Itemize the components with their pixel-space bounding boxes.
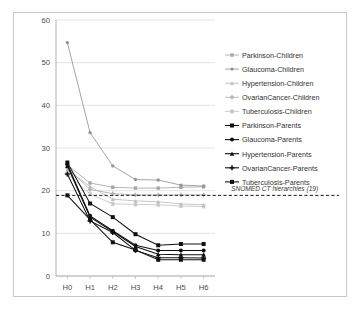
data-point [111,240,115,244]
data-point [134,248,138,252]
legend-label: Hypertension-Parents [242,150,312,159]
data-point [179,183,182,186]
data-point [134,178,137,181]
legend-marker [230,53,233,56]
legend-marker [230,124,234,128]
x-tick-label: H5 [176,283,186,292]
line-chart-svg: 0102030405060H0H1H2H3H4H5H6SNOMED CT hie… [14,13,346,296]
x-tick-label: H0 [62,283,72,292]
chart-plot-frame: 0102030405060H0H1H2H3H4H5H6SNOMED CT hie… [13,12,347,297]
x-tick-label: H2 [108,283,118,292]
chart-legend: Parkinson-ChildrenGlaucoma-ChildrenHyper… [225,51,320,187]
y-tick-label: 0 [46,272,50,281]
legend-marker [230,67,233,70]
data-point [202,248,206,252]
y-tick-label: 30 [42,144,50,153]
data-point [179,248,183,252]
legend-item-tuberculosis-children[interactable]: Tuberculosis-Children [225,107,312,116]
x-tick-label: H6 [199,283,209,292]
legend-label: OvarianCancer-Children [242,93,320,102]
legend-label: Glaucoma-Parents [242,135,302,144]
legend-marker [230,180,234,184]
data-point [202,258,206,262]
y-tick-label: 40 [42,101,50,110]
x-tick-label: H3 [131,283,141,292]
chart-figure: 0102030405060H0H1H2H3H4H5H6SNOMED CT hie… [0,0,360,318]
data-point [88,181,91,184]
data-point [66,41,69,44]
legend-item-ovariancancer-parents[interactable]: OvarianCancer-Parents [225,164,318,173]
data-point [134,186,137,189]
legend-label: Tuberculosis-Children [242,107,312,116]
legend-label: Parkinson-Children [242,51,303,60]
data-point [157,178,160,181]
y-tick-label: 50 [42,58,50,67]
y-tick-label: 60 [42,16,50,25]
y-tick-label: 20 [42,186,50,195]
legend-marker [230,138,234,142]
legend-item-ovariancancer-children[interactable]: OvarianCancer-Children [225,93,320,102]
legend-label: Tuberculosis-Parents [242,178,310,187]
data-point [88,131,91,134]
legend-item-hypertension-children[interactable]: Hypertension-Children [225,79,314,88]
legend-item-glaucoma-parents[interactable]: Glaucoma-Parents [225,135,302,144]
data-point [156,248,160,252]
y-tick-label: 10 [42,229,50,238]
data-point [134,232,138,236]
legend-item-parkinson-parents[interactable]: Parkinson-Parents [225,121,302,130]
legend-label: Glaucoma-Children [242,65,304,74]
x-tick-label: H1 [85,283,95,292]
legend-label: Hypertension-Children [242,79,314,88]
data-point [111,186,114,189]
data-point [156,258,160,262]
data-point [202,184,205,187]
data-point [179,258,183,262]
legend-item-parkinson-children[interactable]: Parkinson-Children [225,51,303,60]
data-point [202,242,206,246]
legend-label: OvarianCancer-Parents [242,164,318,173]
data-point [88,218,92,222]
x-tick-label: H4 [153,283,163,292]
legend-item-hypertension-parents[interactable]: Hypertension-Parents [225,150,312,159]
legend-label: Parkinson-Parents [242,121,302,130]
data-point [111,215,115,219]
legend-item-glaucoma-children[interactable]: Glaucoma-Children [225,65,304,74]
data-point [157,186,160,189]
data-point [156,243,160,247]
data-point [179,242,183,246]
data-point [111,164,114,167]
data-point [88,201,92,205]
